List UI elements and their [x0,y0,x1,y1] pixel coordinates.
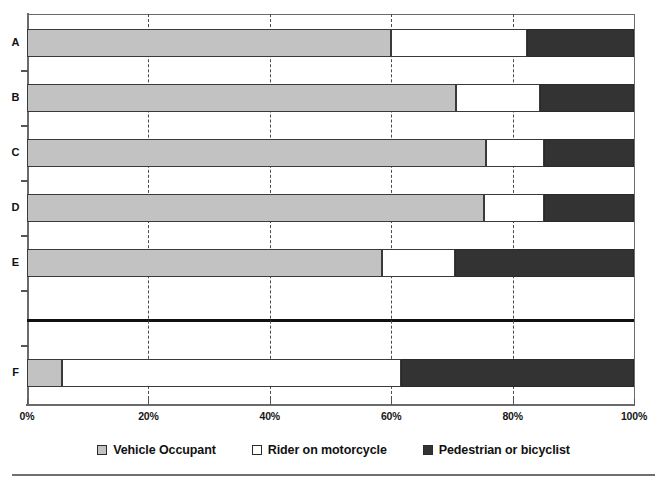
bar-segment-a-vehicle-occupant [27,29,391,57]
bar-segment-f-pedestrian-or-bicyclist [401,359,634,387]
x-tick-mark-0% [27,399,28,405]
bar-segment-e-pedestrian-or-bicyclist [455,249,634,277]
bar-segment-f-rider-on-motorcycle [62,359,401,387]
y-tick-mark-5 [21,345,28,347]
x-tick-label-0%: 0% [3,410,51,422]
x-tick-label-80%: 80% [489,410,537,422]
bar-segment-e-rider-on-motorcycle [382,249,455,277]
x-tick-label-40%: 40% [246,410,294,422]
y-tick-label-a: A [8,36,23,48]
bar-segment-d-vehicle-occupant [27,194,484,222]
bar-row-d [27,194,634,222]
y-tick-mark-1 [21,125,28,127]
bar-segment-c-vehicle-occupant [27,139,486,167]
y-tick-label-c: C [8,146,23,158]
legend-item-pedestrian-or-bicyclist: Pedestrian or bicyclist [423,443,570,457]
y-tick-label-b: B [8,91,23,103]
bar-segment-a-rider-on-motorcycle [391,29,527,57]
bar-row-b [27,84,634,112]
group-separator [27,319,634,322]
x-tick-mark-60% [391,399,392,405]
chart-legend: Vehicle Occupant Rider on motorcycle Ped… [0,443,667,457]
bar-segment-c-pedestrian-or-bicyclist [544,139,634,167]
legend-swatch-rider-on-motorcycle [252,445,262,455]
y-tick-label-f: F [8,366,23,378]
x-axis-line [26,404,635,406]
chart-figure: ABCDEF 0%20%40%60%80%100% Vehicle Occupa… [0,0,667,483]
bar-segment-c-rider-on-motorcycle [486,139,544,167]
bar-row-e [27,249,634,277]
y-tick-label-d: D [8,201,23,213]
legend-swatch-vehicle-occupant [97,445,107,455]
x-tick-mark-100% [634,399,635,405]
legend-item-vehicle-occupant: Vehicle Occupant [97,443,216,457]
y-tick-mark-2 [21,180,28,182]
footer-divider [12,474,655,476]
bar-segment-f-vehicle-occupant [27,359,62,387]
y-tick-mark-4 [21,290,28,292]
bar-segment-a-pedestrian-or-bicyclist [527,29,634,57]
x-tick-label-100%: 100% [610,410,658,422]
bar-segment-e-vehicle-occupant [27,249,382,277]
x-tick-mark-20% [148,399,149,405]
bar-row-c [27,139,634,167]
x-tick-label-60%: 60% [367,410,415,422]
bar-segment-d-pedestrian-or-bicyclist [544,194,634,222]
x-tick-mark-80% [513,399,514,405]
y-tick-label-e: E [8,256,23,268]
x-tick-label-20%: 20% [124,410,172,422]
legend-label-pedestrian-or-bicyclist: Pedestrian or bicyclist [439,443,570,457]
legend-item-rider-on-motorcycle: Rider on motorcycle [252,443,387,457]
legend-label-rider-on-motorcycle: Rider on motorcycle [268,443,387,457]
y-tick-mark-0 [21,70,28,72]
bar-row-f [27,359,634,387]
bar-segment-b-rider-on-motorcycle [456,84,540,112]
bar-segment-d-rider-on-motorcycle [484,194,544,222]
y-tick-mark-3 [21,235,28,237]
legend-swatch-pedestrian-or-bicyclist [423,445,433,455]
legend-label-vehicle-occupant: Vehicle Occupant [113,443,216,457]
bar-segment-b-vehicle-occupant [27,84,456,112]
bar-segment-b-pedestrian-or-bicyclist [540,84,634,112]
bar-row-a [27,29,634,57]
x-tick-mark-40% [270,399,271,405]
